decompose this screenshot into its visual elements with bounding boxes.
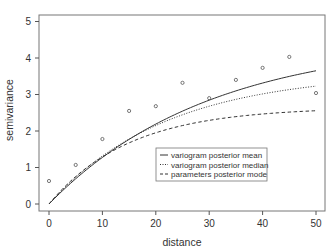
x-tick-label: 0 [46,218,52,229]
curves [49,71,316,204]
data-point [288,55,291,58]
data-point [101,137,104,140]
x-axis-title: distance [162,236,201,248]
legend-item-mode: parameters posterior mode [171,170,268,179]
legend: variogram posterior mean variogram poste… [156,148,268,181]
y-tick-label: 5 [25,16,31,27]
y-tick-label: 2 [25,126,31,137]
data-point [181,81,184,84]
y-tick-label: 0 [25,199,31,210]
y-tick-label: 1 [25,162,31,173]
x-tick-label: 30 [204,218,216,229]
y-axis-title: semivariance [3,79,15,141]
data-point [47,179,50,182]
data-point [234,78,237,81]
x-tick-label: 20 [150,218,162,229]
x-tick-label: 50 [310,218,322,229]
x-tick-label: 40 [257,218,269,229]
x-axis: 01020304050 [46,211,322,229]
curve-dotted [49,86,316,204]
data-point [314,91,317,94]
x-tick-label: 10 [97,218,109,229]
data-point [74,163,77,166]
y-tick-label: 3 [25,89,31,100]
y-tick-label: 4 [25,53,31,64]
data-point [128,109,131,112]
data-point [261,66,264,69]
data-point [208,97,211,100]
curve-solid [49,71,316,204]
variogram-chart: 012345 01020304050 distance semivariance… [0,0,336,252]
y-axis: 012345 [25,16,39,210]
legend-item-mean: variogram posterior mean [171,151,262,160]
data-point [154,105,157,108]
legend-item-median: variogram posterior median [171,161,268,170]
